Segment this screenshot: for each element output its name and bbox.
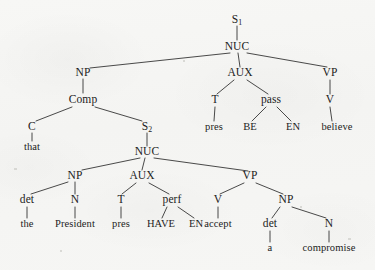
tree-node-np3: NP [279, 194, 294, 206]
tree-node-label: EN [286, 121, 300, 132]
tree-node-label: HAVE [147, 218, 175, 229]
tree-node-np2: NP [68, 170, 83, 182]
tree-edge-perf-to-have [162, 207, 167, 218]
tree-node-label: compromise [303, 242, 356, 253]
tree-node-vp1: VP [323, 67, 338, 79]
tree-node-perf: perf [163, 194, 182, 206]
tree-node-label: BE [243, 121, 257, 132]
tree-node-believe: believe [321, 122, 352, 133]
tree-node-aux1: AUX [227, 67, 252, 79]
tree-edge-nuc2-to-vp2 [154, 158, 248, 171]
tree-node-c: C [28, 121, 36, 133]
tree-node-pres2: pres [112, 219, 130, 230]
tree-node-label: V [326, 93, 334, 105]
tree-edge-pass-to-en1 [277, 107, 291, 121]
tree-node-n1: N [71, 194, 79, 206]
tree-node-label: AUX [129, 169, 154, 181]
tree-edge-nuc2-to-aux2 [142, 158, 145, 170]
tree-node-label: T [211, 93, 218, 105]
tree-edge-aux1-to-pass [247, 80, 268, 94]
tree-node-label: Comp [69, 93, 98, 105]
tree-node-label: VP [243, 169, 258, 181]
tree-node-label: NP [279, 193, 294, 205]
tree-node-compromise: compromise [303, 243, 356, 254]
tree-node-label: det [20, 193, 34, 205]
tree-node-label: perf [163, 193, 182, 205]
tree-node-label: that [24, 141, 40, 152]
tree-node-v2: V [214, 194, 222, 206]
tree-node-n2: N [325, 218, 333, 230]
tree-node-a: a [268, 243, 273, 254]
tree-edge-v1-to-believe [330, 107, 332, 121]
tree-edge-perf-to-en2 [178, 207, 194, 218]
tree-node-label: C [28, 120, 36, 132]
tree-node-label: a [268, 242, 273, 253]
tree-node-det1: det [20, 194, 34, 206]
tree-node-t2: T [117, 194, 124, 206]
tree-node-label: NP [76, 66, 91, 78]
tree-node-label: pres [112, 218, 130, 229]
tree-node-en1: EN [286, 122, 300, 133]
tree-node-label: NUC [135, 145, 160, 157]
tree-node-label: AUX [227, 66, 252, 78]
tree-node-nuc1: NUC [225, 41, 250, 53]
tree-edge-np3-to-n2 [292, 207, 326, 218]
tree-node-v1: V [326, 94, 334, 106]
tree-node-det2: det [263, 218, 277, 230]
tree-node-label: EN [189, 218, 203, 229]
tree-node-label: N [325, 217, 333, 229]
tree-edge-nuc1-to-aux1 [238, 53, 240, 67]
tree-node-accept: accept [204, 219, 231, 230]
tree-node-that: that [24, 142, 40, 153]
tree-node-label: det [263, 217, 277, 229]
tree-node-the: the [20, 219, 33, 230]
tree-node-label: T [117, 193, 124, 205]
tree-node-pass: pass [261, 94, 281, 106]
tree-edge-comp-to-s2 [95, 107, 142, 121]
tree-node-have: HAVE [147, 219, 175, 230]
tree-node-subscript: 1 [238, 18, 242, 27]
tree-node-label: pres [205, 121, 223, 132]
tree-node-label: believe [321, 121, 352, 132]
tree-node-president: President [55, 219, 95, 230]
tree-edge-t1-to-pres1 [214, 107, 215, 121]
tree-node-label: V [214, 193, 222, 205]
tree-node-t1: T [211, 94, 218, 106]
tree-node-np1: NP [76, 67, 91, 79]
tree-edge-layer [0, 0, 375, 270]
tree-edge-nuc2-to-np2 [82, 158, 140, 170]
tree-node-label: VP [323, 66, 338, 78]
tree-node-comp: Comp [69, 94, 98, 106]
tree-node-s2: S2 [142, 121, 152, 134]
tree-edge-aux1-to-t1 [217, 80, 234, 94]
tree-edge-np2-to-det1 [31, 182, 68, 194]
tree-node-subscript: 2 [148, 125, 152, 134]
tree-node-vp2: VP [243, 170, 258, 182]
tree-edge-pass-to-be [252, 107, 266, 121]
syntax-tree-figure: S1NUCNPAUXVPCompTpassVCS2presBEENbelieve… [0, 0, 375, 270]
tree-node-label: NUC [225, 40, 250, 52]
tree-node-label: accept [204, 218, 231, 229]
tree-edge-nuc1-to-vp1 [247, 53, 327, 67]
tree-node-label: the [20, 218, 33, 229]
tree-node-label: NP [68, 169, 83, 181]
tree-node-pres1: pres [205, 122, 223, 133]
tree-node-s1: S1 [232, 14, 242, 27]
tree-node-label: N [71, 193, 79, 205]
tree-node-label: President [55, 218, 95, 229]
tree-edge-comp-to-c [36, 107, 72, 121]
tree-node-en2: EN [189, 219, 203, 230]
tree-node-be: BE [243, 122, 257, 133]
tree-node-nuc2: NUC [135, 146, 160, 158]
tree-node-label: pass [261, 93, 281, 105]
tree-node-aux2: AUX [129, 170, 154, 182]
tree-edge-vp2-to-v2 [220, 183, 244, 194]
tree-edge-nuc1-to-np1 [90, 53, 230, 68]
